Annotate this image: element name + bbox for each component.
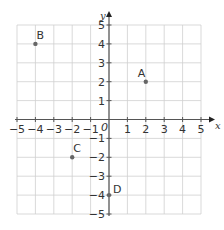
- y-tick-label: −1: [89, 132, 105, 145]
- point-marker-icon: [107, 193, 111, 197]
- y-tick-label: −5: [89, 208, 105, 221]
- point-label: C: [73, 142, 81, 155]
- x-tick-label: 3: [161, 123, 168, 136]
- x-tick-label: −3: [46, 123, 62, 136]
- y-tick-label: 2: [98, 76, 105, 89]
- coordinate-grid: xy −5−4−3−2−11234554321−1−2−3−4−50 ABCD: [0, 0, 224, 230]
- x-tick-label: 1: [124, 123, 131, 136]
- point-label: D: [113, 183, 121, 196]
- x-tick-label: 5: [198, 123, 205, 136]
- y-tick-label: 5: [98, 19, 105, 32]
- y-tick-label: 3: [98, 57, 105, 70]
- point-marker-icon: [144, 80, 148, 84]
- x-tick-label: −2: [64, 123, 80, 136]
- x-tick-label: 2: [142, 123, 149, 136]
- y-tick-label: 1: [98, 95, 105, 108]
- y-tick-label: 4: [98, 38, 105, 51]
- point-label: B: [36, 29, 44, 42]
- point-marker-icon: [70, 155, 74, 159]
- y-tick-label: −2: [89, 151, 105, 164]
- y-tick-label: −4: [89, 189, 105, 202]
- origin-label: 0: [101, 121, 108, 134]
- x-tick-label: −5: [9, 123, 25, 136]
- x-axis-label: x: [215, 120, 221, 131]
- point-label: A: [138, 67, 146, 80]
- x-tick-label: −4: [27, 123, 43, 136]
- y-tick-label: −3: [89, 170, 105, 183]
- x-tick-label: 4: [179, 123, 186, 136]
- y-axis-arrow-icon: [106, 11, 112, 17]
- point-marker-icon: [33, 42, 37, 46]
